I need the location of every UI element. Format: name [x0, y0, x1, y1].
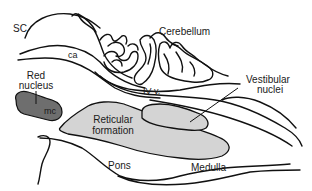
label-red-nucleus-line2: nucleus: [13, 80, 59, 91]
cerebellum-folia-right-2: [164, 44, 195, 76]
brainstem-diagram: SC ca Cerebellum Red nucleus mc IV v. Ve…: [0, 0, 312, 191]
label-superior-colliculus: SC: [13, 23, 27, 34]
label-medulla: Medulla: [191, 162, 226, 173]
cerebellum-folia-center-2: [148, 44, 151, 64]
label-fourth-ventricle: IV v.: [143, 86, 160, 97]
label-reticular-line2: formation: [85, 125, 141, 136]
label-vestibular-line2: nuclei: [257, 84, 283, 95]
cerebellum-folia-left-2: [112, 44, 138, 66]
label-cerebral-aqueduct: ca: [68, 50, 78, 61]
vestibular-region-contour: [222, 97, 296, 128]
label-magnocellular: mc: [44, 106, 56, 117]
cerebellum-folia-left: [100, 34, 138, 72]
cerebellum-folia-right: [159, 42, 213, 82]
label-reticular-line1: Reticular: [85, 114, 141, 125]
vestibular-pointer: [190, 88, 238, 122]
label-cerebellum: Cerebellum: [159, 26, 210, 37]
label-pons: Pons: [108, 160, 131, 171]
